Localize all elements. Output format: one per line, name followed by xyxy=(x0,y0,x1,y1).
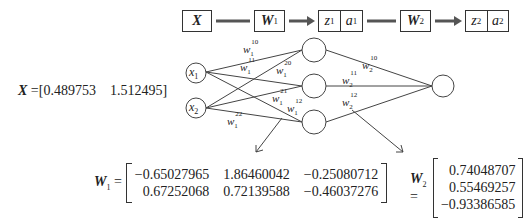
input-vector-values: [0.489753 1.512495] xyxy=(39,83,167,98)
weight-w2-10: w102 xyxy=(362,60,373,76)
w-sup: 11 xyxy=(350,68,357,79)
w2-matrix-grid: 0.74048707 0.55469257 −0.93386585 xyxy=(438,163,518,213)
w1-matrix-sub: 1 xyxy=(106,183,110,192)
w1-cell: −0.46037276 xyxy=(304,184,378,200)
input-vector: X =[0.489753 1.512495] xyxy=(18,83,167,99)
w-sub: 1 xyxy=(283,71,287,79)
w1-cell: −0.25080712 xyxy=(304,167,378,183)
w2-cell: 0.55469257 xyxy=(441,180,515,196)
right-bracket xyxy=(381,163,387,203)
pointer-to-w1 xyxy=(256,118,282,152)
w2-cell: −0.93386585 xyxy=(441,197,515,213)
w-sup: 11 xyxy=(248,55,255,66)
w2-matrix-label: W xyxy=(410,171,422,186)
input-vector-equals: = xyxy=(27,83,38,98)
input-vector-label: X xyxy=(18,83,27,98)
w-sub: 1 xyxy=(279,99,283,107)
hidden-node-3 xyxy=(302,110,326,134)
w-sup: 10 xyxy=(370,53,377,64)
arrow-head-icon xyxy=(307,16,315,26)
w-sub: 2 xyxy=(349,81,353,89)
output-node xyxy=(432,75,454,97)
input-label-x2: x2 xyxy=(189,100,198,116)
w1-matrix-equals: = xyxy=(114,174,122,189)
arrow-head-icon xyxy=(454,16,462,26)
pointer-to-w2 xyxy=(352,110,403,152)
w-sup: 21 xyxy=(280,86,287,97)
hidden-node-1 xyxy=(302,38,326,62)
w-sup: 20 xyxy=(284,58,291,69)
w-sub: 1 xyxy=(234,122,238,130)
w1-cell: 0.72139588 xyxy=(223,184,290,200)
weight-w1-22: w221 xyxy=(227,116,238,132)
w-sup: 22 xyxy=(235,109,242,120)
w2-matrix-sub: 2 xyxy=(422,180,426,189)
x1-sub: 1 xyxy=(194,72,198,81)
weight-w1-12: w121 xyxy=(287,103,298,119)
right-bracket xyxy=(518,158,523,218)
w1-cell: 1.86460042 xyxy=(223,167,290,183)
weight-w2-11: w112 xyxy=(342,75,353,91)
x2-sub: 2 xyxy=(194,107,198,116)
w2-cell: 0.74048707 xyxy=(441,163,515,179)
weight-w2-12: w122 xyxy=(342,97,353,113)
w1-cell: 0.67252068 xyxy=(135,184,209,200)
weight-w1-20: w201 xyxy=(276,65,287,81)
weight-w1-11: w111 xyxy=(240,62,251,78)
w2-matrix-equals: = xyxy=(410,189,418,204)
w-sup: 10 xyxy=(251,37,258,48)
w1-matrix-label: W xyxy=(94,174,106,189)
w1-matrix: W1 = −0.65027965 1.86460042 −0.25080712 … xyxy=(94,163,387,203)
input-label-x1: x1 xyxy=(189,65,198,81)
w1-matrix-grid: −0.65027965 1.86460042 −0.25080712 0.672… xyxy=(132,167,381,200)
w1-cell: −0.65027965 xyxy=(135,167,209,183)
w-sub: 1 xyxy=(247,68,251,76)
weight-w1-21: w211 xyxy=(272,93,283,109)
w-sub: 2 xyxy=(349,103,353,111)
hidden-node-2 xyxy=(302,74,326,98)
w2-matrix: W2 = 0.74048707 0.55469257 −0.93386585 xyxy=(410,158,523,218)
w-sub: 2 xyxy=(369,66,373,74)
w-sup: 12 xyxy=(295,96,302,107)
w-sup: 12 xyxy=(350,90,357,101)
w-sub: 1 xyxy=(294,109,298,117)
